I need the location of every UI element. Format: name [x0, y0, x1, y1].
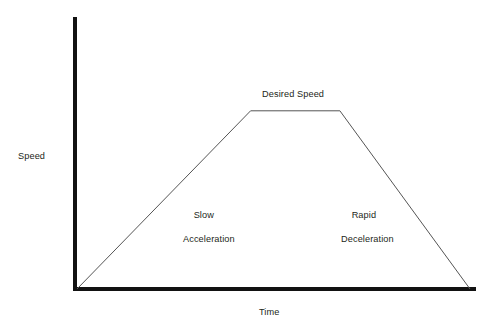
x-axis-label: Time [259, 306, 279, 318]
profile-polyline [77, 111, 470, 289]
annotation-rapid-deceleration-line1: Rapid [352, 210, 377, 220]
annotation-slow-acceleration-line2: Acceleration [183, 233, 235, 245]
annotation-slow-acceleration: Slow Acceleration [183, 197, 235, 269]
annotation-rapid-deceleration-line2: Deceleration [341, 233, 394, 245]
annotation-slow-acceleration-line1: Slow [194, 210, 214, 220]
annotation-desired-speed: Desired Speed [262, 88, 324, 100]
annotation-rapid-deceleration: Rapid Deceleration [341, 197, 394, 269]
speed-profile-chart: Speed Time Desired Speed Slow Accelerati… [0, 0, 493, 328]
speed-profile-curve [0, 0, 493, 328]
y-axis-label: Speed [18, 150, 45, 162]
